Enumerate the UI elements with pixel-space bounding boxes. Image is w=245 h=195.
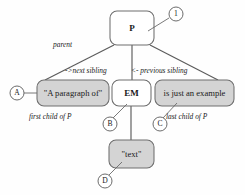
node-label-last-text: is just an example: [164, 88, 226, 98]
marker-b[interactable]: B: [103, 117, 117, 131]
edge-label-last-child: last child of P: [166, 112, 208, 121]
node-label-em-text: "text": [122, 149, 142, 159]
dom-tree-diagram: P "A paragraph of" EM is just an example…: [0, 0, 245, 195]
edge-label-next-sibling: ->next sibling: [65, 66, 107, 75]
marker-c-letter: C: [157, 119, 162, 128]
marker-d[interactable]: D: [98, 174, 112, 188]
node-label-p: P: [129, 23, 135, 33]
edge-label-first-child: first child of P: [29, 112, 72, 121]
node-label-first-text: "A paragraph of": [44, 88, 103, 98]
edge-label-parent: parent: [52, 40, 73, 49]
marker-a[interactable]: A: [10, 86, 24, 100]
marker-1-letter: 1: [174, 9, 178, 18]
marker-b-letter: B: [107, 119, 112, 128]
marker-d-letter: D: [102, 176, 108, 185]
marker-1[interactable]: 1: [169, 7, 183, 21]
marker-c[interactable]: C: [153, 117, 167, 131]
edge-label-previous-sibling: <- previous sibling: [131, 66, 188, 75]
diagram-canvas: P "A paragraph of" EM is just an example…: [0, 0, 245, 195]
marker-a-letter: A: [14, 88, 20, 97]
node-label-em: EM: [124, 88, 139, 98]
